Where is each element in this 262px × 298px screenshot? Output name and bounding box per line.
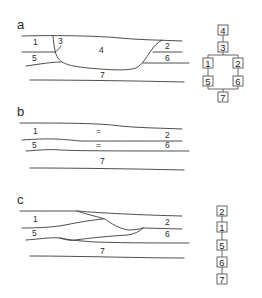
svg-text:7: 7 xyxy=(219,274,224,285)
sequence-box-2: 2 xyxy=(233,58,243,69)
unit-label: 7 xyxy=(100,246,105,256)
sequence-box-1: 1 xyxy=(217,222,227,233)
stratum-line-1-5-b xyxy=(22,139,182,141)
unit-labels-a: 1 3 4 2 5 6 7 xyxy=(32,36,170,80)
panel-a: a 1 3 4 2 5 6 7 xyxy=(17,17,243,103)
svg-text:5: 5 xyxy=(205,76,210,87)
lens-2-boundary-upper xyxy=(77,211,143,230)
unit-label: 6 xyxy=(165,140,170,150)
sequence-box-2: 2 xyxy=(217,206,227,217)
sequence-diagram-c: 2 1 5 6 7 xyxy=(217,206,227,285)
unit-label: 5 xyxy=(32,140,37,150)
unit-label: 7 xyxy=(100,156,105,166)
stratum-line-top-b xyxy=(20,123,182,129)
svg-text:3: 3 xyxy=(220,42,225,53)
stratigraphy-figure: a 1 3 4 2 5 6 7 xyxy=(0,0,262,298)
equivalence-sign: = xyxy=(96,126,101,136)
svg-text:4: 4 xyxy=(220,25,225,36)
sequence-diagram-a: 4 3 1 2 5 6 7 xyxy=(203,25,243,103)
panel-label-a: a xyxy=(17,17,25,32)
unit-label: 1 xyxy=(33,37,38,47)
stratum-line-base-c xyxy=(30,256,184,258)
panel-c: c 1 2 5 6 7 2 xyxy=(17,192,227,285)
unit-label: 2 xyxy=(165,217,170,227)
sequence-box-6: 6 xyxy=(233,76,243,87)
equivalence-sign: = xyxy=(96,140,101,150)
unit-labels-b: 1 = 2 5 = 6 7 xyxy=(32,126,170,166)
panel-label-b: b xyxy=(17,104,24,119)
svg-text:5: 5 xyxy=(219,240,224,251)
unit-label: 4 xyxy=(99,45,104,55)
unit-label: 7 xyxy=(100,70,105,80)
svg-text:1: 1 xyxy=(205,58,210,69)
stratum-line-top-a xyxy=(22,36,182,41)
sequence-box-5: 5 xyxy=(217,240,227,251)
sequence-box-5: 5 xyxy=(203,76,213,87)
unit-label: 2 xyxy=(165,130,170,140)
unit-label: 1 xyxy=(33,126,38,136)
panel-b: b 1 = 2 5 = 6 7 xyxy=(17,104,189,170)
stratum-line-base-a xyxy=(30,80,184,82)
sequence-box-6: 6 xyxy=(217,257,227,268)
stratum-line-top-c xyxy=(20,211,182,216)
sequence-box-7: 7 xyxy=(217,274,227,285)
svg-text:1: 1 xyxy=(219,222,224,233)
channel-cut-boundary xyxy=(53,36,162,70)
unit-label: 5 xyxy=(32,53,37,63)
sequence-box-1: 1 xyxy=(203,58,213,69)
svg-text:2: 2 xyxy=(235,58,240,69)
sequence-box-3: 3 xyxy=(218,42,228,53)
lens-boundary-mid xyxy=(143,228,182,229)
unit-label: 1 xyxy=(33,214,38,224)
unit-label: 6 xyxy=(165,53,170,63)
unit-label: 5 xyxy=(32,228,37,238)
svg-text:6: 6 xyxy=(219,257,224,268)
sequence-box-4: 4 xyxy=(218,25,228,36)
panel-label-c: c xyxy=(17,192,24,207)
connector xyxy=(208,52,238,58)
svg-text:7: 7 xyxy=(220,92,225,103)
svg-text:2: 2 xyxy=(219,206,224,217)
svg-text:6: 6 xyxy=(235,76,240,87)
unit-label: 6 xyxy=(165,229,170,239)
unit-3-boundary xyxy=(55,46,61,52)
sequence-box-7: 7 xyxy=(218,92,228,103)
stratum-line-base-b xyxy=(30,168,184,170)
unit-labels-c: 1 2 5 6 7 xyxy=(32,214,170,256)
unit-label: 3 xyxy=(58,36,63,46)
unit-label: 2 xyxy=(165,41,170,51)
